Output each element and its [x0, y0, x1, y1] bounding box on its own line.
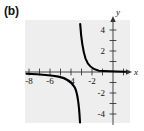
y-tick-label-4: 4	[101, 25, 106, 35]
x-tick-label-minus8: -8	[25, 76, 33, 86]
x-axis-label: x	[133, 67, 138, 77]
figure-panel-b: (b)	[0, 0, 144, 131]
graph-plot: -8 -6 -4 -2 4 2 -2 -4 x y	[0, 0, 144, 131]
y-tick-label-minus4: -4	[98, 109, 106, 119]
y-tick-label-2: 2	[101, 46, 106, 56]
y-tick-label-minus2: -2	[98, 88, 106, 98]
x-tick-label-minus2: -2	[88, 76, 96, 86]
y-axis-arrow	[110, 16, 115, 22]
y-axis-label: y	[115, 7, 120, 17]
x-tick-label-minus6: -6	[46, 76, 54, 86]
